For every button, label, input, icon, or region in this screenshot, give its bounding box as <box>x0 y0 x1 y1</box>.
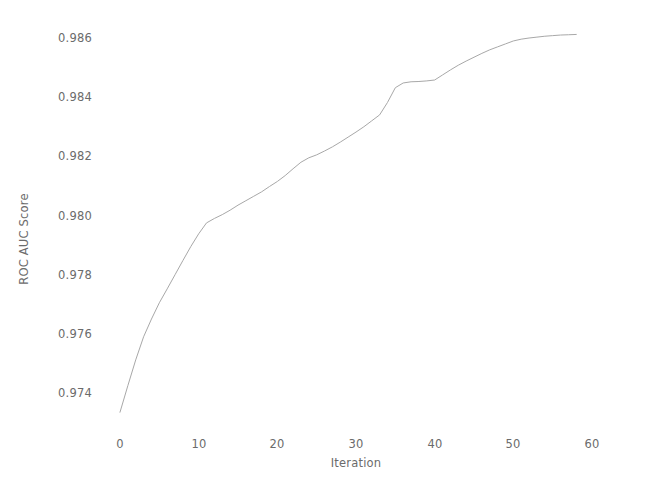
xtick-label-0: 0 <box>116 437 124 451</box>
xtick-label-60: 60 <box>584 437 599 451</box>
xtick-label-30: 30 <box>348 437 363 451</box>
xtick-label-20: 20 <box>269 437 284 451</box>
ytick-label-0978: 0.978 <box>32 268 92 282</box>
x-axis-title: Iteration <box>331 456 382 470</box>
xtick-label-10: 10 <box>191 437 206 451</box>
xtick-label-50: 50 <box>505 437 520 451</box>
ytick-label-0974: 0.974 <box>32 386 92 400</box>
ytick-label-0980: 0.980 <box>32 209 92 223</box>
ytick-label-0976: 0.976 <box>32 327 92 341</box>
ytick-label-0982: 0.982 <box>32 149 92 163</box>
chart-figure: 0.986 0.984 0.982 0.980 0.978 0.976 0.97… <box>0 0 654 498</box>
ytick-label-0984: 0.984 <box>32 90 92 104</box>
line-chart-plot <box>0 0 654 498</box>
xtick-label-40: 40 <box>427 437 442 451</box>
roc-auc-curve <box>120 34 576 412</box>
y-axis-title: ROC AUC Score <box>17 193 31 285</box>
ytick-label-0986: 0.986 <box>32 31 92 45</box>
